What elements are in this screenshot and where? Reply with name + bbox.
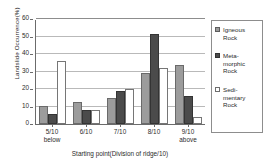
bar-sedimentary [125,89,134,124]
bar-group [104,20,138,124]
bar-igneous [141,73,150,124]
x-tick-mark [188,124,189,127]
y-tick-label: 30 [22,66,29,73]
x-axis-title: Starting point(Division of ridge/10) [35,150,205,157]
y-tick-label: 10 [22,101,29,108]
y-tick-label: 20 [22,84,29,91]
y-tick-mark [30,19,33,20]
legend-label: Meta- morphic Rock [223,52,245,75]
bar-metamorphic [184,96,193,124]
y-tick-mark [30,124,33,125]
x-axis-tick-labels: 5/10below6/107/108/109/10above [35,128,205,144]
y-axis-ticks: 0102030405060 [0,20,33,125]
legend-item-metamorphic[interactable]: Meta- morphic Rock [215,52,260,75]
x-tick-mark [120,124,121,127]
x-tick-label: 5/10below [35,128,69,144]
bar-group [70,20,104,124]
bar-igneous [39,106,48,124]
y-tick-mark [30,89,33,90]
legend-item-igneous[interactable]: Igneous Rock [215,26,260,41]
bar-metamorphic [116,91,125,124]
gridline [36,18,205,19]
bar-metamorphic [48,114,57,124]
y-tick-mark [30,72,33,73]
x-tick-label: 7/10 [103,128,137,144]
x-tick-label-line1: 9/10 [182,128,194,135]
bar-igneous [107,98,116,124]
x-tick-label: 9/10above [171,128,205,144]
x-tick-label-line1: 6/10 [80,128,92,135]
y-tick-label: 50 [22,31,29,38]
bar-group [36,20,70,124]
y-tick-mark [30,54,33,55]
bar-igneous [175,65,184,125]
legend-swatch-sedimentary-icon [215,87,220,92]
bar-metamorphic [82,110,91,124]
y-tick-label: 40 [22,49,29,56]
x-tick-label: 8/10 [137,128,171,144]
x-tick-mark [154,124,155,127]
y-tick-mark [30,107,33,108]
bar-sedimentary [159,68,168,124]
legend-item-sedimentary[interactable]: Sedi- mentary Rock [215,86,260,109]
bar-metamorphic [150,34,159,124]
x-tick-label-line1: 8/10 [148,128,160,135]
x-tick-label-line1: 5/10 [46,128,58,135]
bar-group [171,20,205,124]
x-tick-label-line1: 7/10 [114,128,126,135]
legend-label: Sedi- mentary Rock [223,86,245,109]
bar-sedimentary [91,110,100,124]
x-tick-label-line2: below [35,136,69,144]
legend: Igneous RockMeta- morphic RockSedi- ment… [211,20,263,133]
y-tick-mark [30,37,33,38]
y-tick-label: 0 [25,119,29,126]
x-tick-label: 6/10 [69,128,103,144]
plot-area [35,20,205,125]
bar-igneous [73,102,82,124]
y-tick-label: 60 [22,14,29,21]
legend-swatch-metamorphic-icon [215,53,220,58]
x-tick-mark [86,124,87,127]
x-tick-label-line2: above [171,136,205,144]
landslide-occurrence-bar-chart: Landslide Occurrence(%) 0102030405060 5/… [0,0,266,165]
bar-sedimentary [193,117,202,124]
bar-sedimentary [57,61,66,124]
bar-groups [36,20,205,124]
bar-group [137,20,171,124]
x-tick-mark [52,124,53,127]
legend-label: Igneous Rock [223,26,245,41]
legend-swatch-igneous-icon [215,27,220,32]
